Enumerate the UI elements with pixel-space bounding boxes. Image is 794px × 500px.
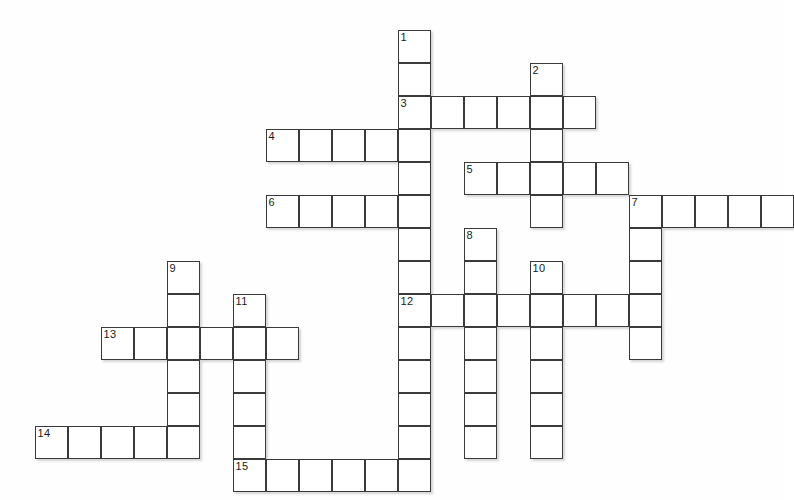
crossword-cell[interactable] xyxy=(134,327,167,360)
crossword-cell[interactable] xyxy=(530,162,563,195)
crossword-cell[interactable] xyxy=(365,195,398,228)
crossword-cell[interactable] xyxy=(530,195,563,228)
clue-number-7: 7 xyxy=(632,196,639,208)
crossword-cell[interactable] xyxy=(134,426,167,459)
crossword-cell[interactable] xyxy=(167,360,200,393)
crossword-cell[interactable] xyxy=(530,360,563,393)
crossword-cell[interactable] xyxy=(299,129,332,162)
crossword-cell-numbered-11[interactable]: 11 xyxy=(233,294,266,327)
crossword-cell[interactable] xyxy=(365,129,398,162)
crossword-cell[interactable] xyxy=(332,459,365,492)
crossword-cell-numbered-10[interactable]: 10 xyxy=(530,261,563,294)
crossword-cell-numbered-13[interactable]: 13 xyxy=(101,327,134,360)
crossword-cell[interactable] xyxy=(728,195,761,228)
crossword-cell[interactable] xyxy=(629,261,662,294)
clue-number-12: 12 xyxy=(401,295,414,307)
crossword-cell[interactable] xyxy=(530,426,563,459)
crossword-cell[interactable] xyxy=(167,327,200,360)
crossword-cell[interactable] xyxy=(497,96,530,129)
crossword-cell[interactable] xyxy=(464,426,497,459)
crossword-cell[interactable] xyxy=(398,261,431,294)
clue-number-5: 5 xyxy=(467,163,474,175)
crossword-cell-numbered-9[interactable]: 9 xyxy=(167,261,200,294)
crossword-cell[interactable] xyxy=(398,327,431,360)
crossword-cell[interactable] xyxy=(629,228,662,261)
crossword-cell[interactable] xyxy=(431,294,464,327)
clue-number-9: 9 xyxy=(170,262,177,274)
crossword-cell-numbered-2[interactable]: 2 xyxy=(530,63,563,96)
crossword-cell-numbered-7[interactable]: 7 xyxy=(629,195,662,228)
crossword-cell[interactable] xyxy=(464,360,497,393)
crossword-cell[interactable] xyxy=(497,294,530,327)
crossword-cell[interactable] xyxy=(332,129,365,162)
crossword-cell[interactable] xyxy=(167,426,200,459)
crossword-cell[interactable] xyxy=(563,294,596,327)
crossword-cell[interactable] xyxy=(431,96,464,129)
clue-number-15: 15 xyxy=(236,460,249,472)
crossword-cell-numbered-4[interactable]: 4 xyxy=(266,129,299,162)
crossword-cell[interactable] xyxy=(530,327,563,360)
crossword-cell[interactable] xyxy=(299,459,332,492)
crossword-cell-numbered-3[interactable]: 3 xyxy=(398,96,431,129)
crossword-cell[interactable] xyxy=(167,294,200,327)
crossword-cell[interactable] xyxy=(233,360,266,393)
crossword-cell[interactable] xyxy=(332,195,365,228)
clue-number-2: 2 xyxy=(533,64,540,76)
crossword-cell[interactable] xyxy=(662,195,695,228)
crossword-cell[interactable] xyxy=(299,195,332,228)
crossword-cell[interactable] xyxy=(596,162,629,195)
crossword-cell[interactable] xyxy=(596,294,629,327)
crossword-cell-numbered-15[interactable]: 15 xyxy=(233,459,266,492)
crossword-cell[interactable] xyxy=(629,327,662,360)
crossword-cell[interactable] xyxy=(233,426,266,459)
crossword-cell[interactable] xyxy=(365,459,398,492)
clue-number-6: 6 xyxy=(269,196,276,208)
crossword-cell[interactable] xyxy=(398,195,431,228)
clue-number-8: 8 xyxy=(467,229,474,241)
clue-number-4: 4 xyxy=(269,130,276,142)
crossword-cell[interactable] xyxy=(464,261,497,294)
crossword-cell-numbered-8[interactable]: 8 xyxy=(464,228,497,261)
crossword-cell[interactable] xyxy=(530,129,563,162)
crossword-cell-numbered-14[interactable]: 14 xyxy=(35,426,68,459)
crossword-cell[interactable] xyxy=(398,63,431,96)
crossword-cell[interactable] xyxy=(398,129,431,162)
crossword-cell[interactable] xyxy=(233,393,266,426)
crossword-cell[interactable] xyxy=(497,162,530,195)
crossword-cell[interactable] xyxy=(398,393,431,426)
crossword-cell[interactable] xyxy=(266,327,299,360)
clue-number-13: 13 xyxy=(104,328,117,340)
crossword-cell[interactable] xyxy=(563,162,596,195)
crossword-cell[interactable] xyxy=(398,459,431,492)
clue-number-14: 14 xyxy=(38,427,51,439)
crossword-cell[interactable] xyxy=(398,162,431,195)
crossword-cell[interactable] xyxy=(464,294,497,327)
crossword-cell-numbered-6[interactable]: 6 xyxy=(266,195,299,228)
crossword-cell[interactable] xyxy=(464,393,497,426)
crossword-cell[interactable] xyxy=(761,195,794,228)
crossword-cell[interactable] xyxy=(398,228,431,261)
crossword-cell[interactable] xyxy=(695,195,728,228)
crossword-cell[interactable] xyxy=(530,96,563,129)
crossword-cell[interactable] xyxy=(200,327,233,360)
crossword-cell[interactable] xyxy=(464,327,497,360)
clue-number-3: 3 xyxy=(401,97,408,109)
clue-number-10: 10 xyxy=(533,262,546,274)
crossword-cell[interactable] xyxy=(530,294,563,327)
crossword-cell-numbered-1[interactable]: 1 xyxy=(398,30,431,63)
crossword-cell-numbered-5[interactable]: 5 xyxy=(464,162,497,195)
crossword-cell[interactable] xyxy=(266,459,299,492)
crossword-cell[interactable] xyxy=(563,96,596,129)
crossword-cell-numbered-12[interactable]: 12 xyxy=(398,294,431,327)
crossword-cell[interactable] xyxy=(167,393,200,426)
crossword-cell[interactable] xyxy=(68,426,101,459)
crossword-cell[interactable] xyxy=(233,327,266,360)
clue-number-1: 1 xyxy=(401,31,408,43)
crossword-cell[interactable] xyxy=(398,360,431,393)
crossword-cell[interactable] xyxy=(101,426,134,459)
crossword-cell[interactable] xyxy=(530,393,563,426)
crossword-cell[interactable] xyxy=(629,294,662,327)
crossword-cell[interactable] xyxy=(398,426,431,459)
crossword-cell[interactable] xyxy=(464,96,497,129)
